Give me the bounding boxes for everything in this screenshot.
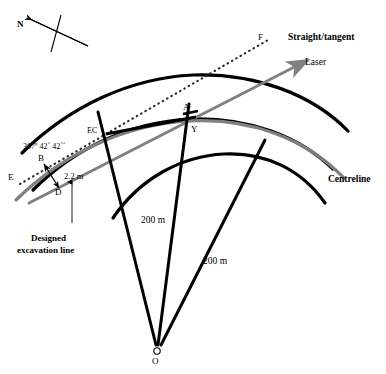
point-y-label: Y — [191, 125, 198, 134]
point-d-label: D — [55, 188, 62, 197]
straight-tangent-dotted-line — [20, 40, 268, 184]
centreline-arc — [16, 121, 344, 200]
point-f-label: F — [258, 33, 263, 42]
radius-outer-label: 200 m — [203, 257, 227, 267]
radius-inner-label: 200 m — [141, 216, 165, 226]
radial-lines-group — [98, 104, 265, 345]
offset-distance-label: 2.2 m — [64, 172, 83, 181]
diagram-canvas: N 307º 42´ 42´´ E B D 2.2 m EC A Y F Str… — [0, 0, 386, 374]
point-o-label: O — [152, 357, 159, 366]
arc-centre-point-o — [154, 348, 160, 354]
point-b-label: B — [38, 154, 44, 163]
point-ec-label: EC — [87, 127, 97, 135]
bearing-label: 307º 42´ 42´´ — [23, 143, 65, 151]
laser-label: Laser — [305, 58, 326, 68]
centreline-label: Centreline — [328, 175, 371, 185]
inner-tunnel-wall-arc — [113, 154, 325, 218]
designed-excavation-line-2: excavation line — [17, 246, 74, 255]
designed-excavation-line-1: Designed — [31, 234, 66, 243]
point-e-label: E — [8, 173, 14, 182]
north-arrow-icon — [30, 15, 88, 52]
north-label: N — [17, 20, 24, 29]
straight-tangent-label: Straight/tangent — [288, 33, 355, 43]
point-a-label: A — [183, 103, 190, 112]
